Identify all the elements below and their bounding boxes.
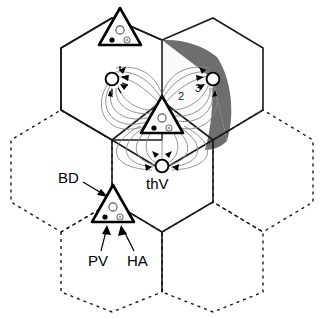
node-left-circle <box>106 73 119 86</box>
triangle-top-ha-core <box>126 39 129 42</box>
callout-bd: BD <box>58 169 108 197</box>
triangle-bottom-left-pv-dot <box>102 214 107 219</box>
node-bottom-circle <box>156 160 169 173</box>
flux-line-left-top-1 <box>116 76 160 104</box>
triangle-bottom-left-bd-ring <box>109 203 117 211</box>
node-bottom-arrow-a <box>152 151 159 158</box>
flux-line-left-3 <box>110 88 154 119</box>
triangle-top-bd-ring <box>116 26 124 34</box>
triangle-top-group <box>99 8 141 45</box>
triangle-center-bd-ring <box>158 114 166 122</box>
triangle-top-pv-dot <box>109 37 114 42</box>
triangle-center-pv-dot <box>151 125 156 130</box>
band-label-3: 3 <box>195 82 201 94</box>
triangle-center-ha-core <box>168 127 171 130</box>
node-left-group <box>106 66 129 97</box>
figure-root: 1 2 3 <box>0 0 324 318</box>
node-bottom-arrow-b <box>165 151 172 158</box>
pv-label: PV <box>88 252 108 269</box>
ha-label: HA <box>127 252 148 269</box>
flux-line-left-5 <box>101 84 150 129</box>
bd-leader-head <box>97 189 108 197</box>
node-left-arrow-c <box>120 84 128 90</box>
hexagon-bottom-right-dashed <box>162 202 263 312</box>
pv-leader-head <box>102 225 111 235</box>
bd-label: BD <box>58 169 79 186</box>
thv-label: thV <box>146 175 169 192</box>
callout-pv: PV <box>88 225 111 269</box>
hex-lattice-diagram: 1 2 3 <box>0 0 324 318</box>
band-label-2: 2 <box>178 90 184 102</box>
triangle-bottom-left-ha-core <box>119 216 122 219</box>
callout-ha: HA <box>118 225 148 269</box>
node-right-circle <box>207 73 220 86</box>
